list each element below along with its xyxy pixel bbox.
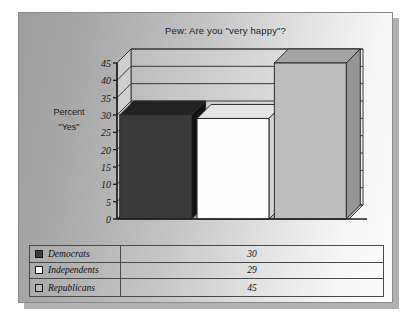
data-table: Democrats 30 Independents 29 Republicans… xyxy=(29,245,384,297)
y-tick-label: 40 xyxy=(85,75,111,86)
chart-canvas xyxy=(115,45,373,235)
series-name: Independents xyxy=(48,265,99,275)
series-name: Democrats xyxy=(48,249,90,259)
table-row[interactable]: Democrats 30 xyxy=(30,246,383,263)
y-tick-label: 10 xyxy=(85,179,111,190)
series-value: 30 xyxy=(121,246,383,262)
chart-title: Pew: Are you "very happy"? xyxy=(19,25,392,36)
series-value: 45 xyxy=(121,279,383,296)
table-row[interactable]: Independents 29 xyxy=(30,263,383,280)
table-row-label-cell: Independents xyxy=(30,263,121,279)
chart-panel: Pew: Are you "very happy"? Percent "Yes"… xyxy=(18,12,393,303)
y-tick-label: 25 xyxy=(85,127,111,138)
y-tick-label: 5 xyxy=(85,196,111,207)
y-tick-label: 30 xyxy=(85,110,111,121)
bar-independents[interactable] xyxy=(197,104,283,219)
table-row-label-cell: Democrats xyxy=(30,246,121,262)
y-tick-label: 20 xyxy=(85,144,111,155)
table-row[interactable]: Republicans 45 xyxy=(30,279,383,296)
y-tick-label: 35 xyxy=(85,92,111,103)
y-tick-label: 0 xyxy=(85,214,111,225)
legend-swatch-icon xyxy=(35,284,43,292)
y-tick-label: 45 xyxy=(85,58,111,69)
y-tick-label: 15 xyxy=(85,162,111,173)
series-name: Republicans xyxy=(48,283,95,293)
bar-democrats[interactable] xyxy=(120,101,206,219)
plot-area: 454035302520151050 xyxy=(115,45,373,235)
legend-swatch-icon xyxy=(35,250,43,258)
series-value: 29 xyxy=(121,263,383,279)
bar-republicans[interactable] xyxy=(274,49,360,219)
legend-swatch-icon xyxy=(35,266,43,274)
table-row-label-cell: Republicans xyxy=(30,279,121,296)
